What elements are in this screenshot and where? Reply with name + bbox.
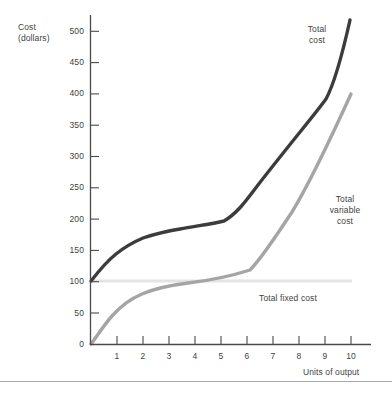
x-tick-label-2: 2	[133, 351, 153, 362]
x-tick-label-5: 5	[211, 351, 231, 362]
y-tick-label-450: 450	[56, 57, 84, 68]
x-axis-title: Units of output	[303, 367, 359, 378]
y-tick-label-500: 500	[56, 26, 84, 37]
y-tick-label-50: 50	[56, 308, 84, 319]
x-tick-label-9: 9	[315, 351, 335, 362]
x-tick-label-3: 3	[159, 351, 179, 362]
total-variable-cost-curve	[91, 94, 351, 344]
y-tick-label-350: 350	[56, 120, 84, 131]
total-variable-cost-label-line-1: Total	[320, 194, 370, 205]
x-tick-label-7: 7	[263, 351, 283, 362]
total-fixed-cost-label: Total fixed cost	[243, 293, 333, 304]
total-cost-label-line-2: cost	[294, 35, 340, 46]
y-axis-title-line-1: Cost	[18, 22, 36, 33]
total-cost-curve	[91, 20, 350, 281]
y-tick-label-400: 400	[56, 88, 84, 99]
x-tick-label-8: 8	[289, 351, 309, 362]
y-axis-title-line-2: (dollars)	[18, 33, 50, 44]
y-tick-label-300: 300	[56, 151, 84, 162]
x-axis-ticks	[117, 336, 351, 344]
x-tick-label-10: 10	[341, 351, 361, 362]
y-tick-label-200: 200	[56, 214, 84, 225]
total-cost-label-line-1: Total	[294, 24, 340, 35]
y-tick-label-0: 0	[56, 339, 84, 350]
x-tick-label-1: 1	[107, 351, 127, 362]
y-tick-label-250: 250	[56, 182, 84, 193]
cost-curves-figure: Cost (dollars) 500 450 400 350 300 250 2…	[0, 0, 392, 395]
total-variable-cost-label-line-2: variable	[320, 205, 370, 216]
total-variable-cost-label-line-3: cost	[320, 216, 370, 227]
y-tick-label-100: 100	[56, 276, 84, 287]
x-tick-label-6: 6	[237, 351, 257, 362]
y-tick-label-150: 150	[56, 245, 84, 256]
footer-divider	[0, 381, 392, 382]
x-tick-label-4: 4	[185, 351, 205, 362]
